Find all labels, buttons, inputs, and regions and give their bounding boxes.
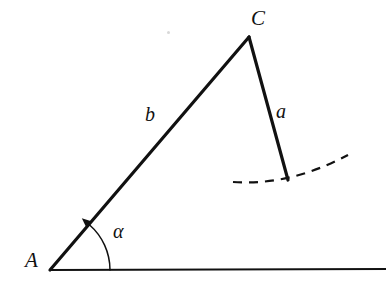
angle-arc-path xyxy=(89,225,110,270)
diagram-canvas xyxy=(0,0,386,299)
side-label-b: b xyxy=(145,104,155,124)
side-label-a: a xyxy=(276,101,286,121)
vertex-label-c: C xyxy=(251,8,265,29)
dashed-arc-path xyxy=(233,155,348,182)
baseline-horizontal xyxy=(50,269,386,270)
angle-label-alpha: α xyxy=(113,221,124,241)
vertex-label-a: A xyxy=(25,250,38,271)
scan-speck-artifact xyxy=(167,31,170,34)
geometry-figure: A C b a α xyxy=(0,0,386,299)
segment-b-line xyxy=(50,37,249,270)
